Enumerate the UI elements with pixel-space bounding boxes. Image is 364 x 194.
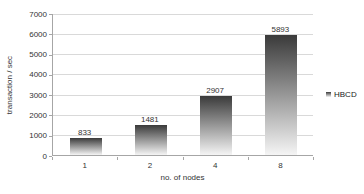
bar (200, 96, 232, 155)
legend-label: HBCD (334, 90, 357, 99)
y-axis-tick-label: 4000 (7, 70, 47, 79)
bar-value-label: 2907 (183, 86, 248, 95)
y-axis-tick-label: 6000 (7, 30, 47, 39)
bar-value-label: 5893 (248, 25, 313, 34)
bar-value-label: 1481 (117, 115, 182, 124)
bar (265, 35, 297, 155)
y-axis-tick-mark (49, 14, 52, 15)
bar (135, 125, 167, 155)
y-axis-tick-label: 5000 (7, 50, 47, 59)
y-axis-title: transaction / sec (5, 25, 15, 145)
y-axis-tick-mark (49, 34, 52, 35)
bar-value-label: 833 (52, 128, 117, 137)
x-axis-tick-mark (117, 157, 118, 160)
y-axis-tick-mark (49, 75, 52, 76)
legend-marker-square-icon (326, 92, 331, 97)
y-axis-tick-mark (49, 115, 52, 116)
x-axis-tick-label: 4 (183, 161, 248, 170)
y-axis-tick-label: 2000 (7, 111, 47, 120)
x-axis-title: no. of nodes (52, 173, 313, 182)
x-axis-tick-label: 8 (248, 161, 313, 170)
x-axis-tick-mark (248, 157, 249, 160)
y-axis-tick-label: 1000 (7, 131, 47, 140)
x-axis-tick-label: 1 (52, 161, 117, 170)
x-axis-tick-mark (52, 157, 53, 160)
y-axis-tick-label: 0 (7, 152, 47, 161)
y-axis-tick-mark (49, 95, 52, 96)
x-axis-tick-mark (313, 157, 314, 160)
legend: HBCD (326, 90, 357, 99)
bar (70, 138, 102, 155)
y-axis-tick-label: 7000 (7, 10, 47, 19)
x-axis-tick-label: 2 (117, 161, 182, 170)
y-axis-tick-mark (49, 55, 52, 56)
gridline (53, 14, 313, 15)
y-axis-tick-label: 3000 (7, 91, 47, 100)
bar-chart: transaction / sec no. of nodes HBCD 0100… (0, 0, 364, 194)
x-axis-tick-mark (183, 157, 184, 160)
